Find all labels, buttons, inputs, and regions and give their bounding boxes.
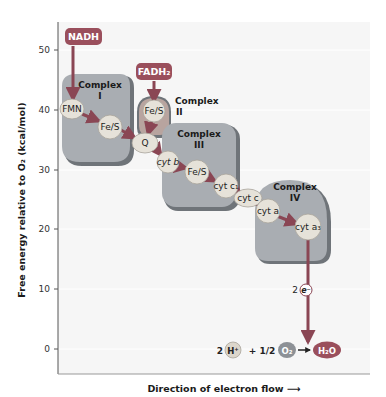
carrier-cyt-b: cyt b (157, 151, 180, 173)
carrier-fes-ii-label: Fe/S (145, 106, 164, 116)
electrons-label: 2 e⁻ (292, 284, 312, 296)
electron-symbol: e⁻ (301, 286, 311, 295)
complex-ii-numeral: II (176, 107, 183, 117)
complex-iii-title: Complex (177, 129, 221, 139)
carrier-q: Q (132, 133, 158, 153)
carrier-fes-i-label: Fe/S (101, 122, 120, 132)
carrier-fes-iii-label: Fe/S (188, 167, 207, 177)
y-tick-30: 30 (39, 165, 51, 175)
y-tick-50: 50 (39, 45, 51, 55)
o2-molecule: O₂ (282, 346, 293, 356)
nadh-label: NADH (68, 31, 99, 42)
carrier-cyt-a3: cyt a₃ (295, 214, 321, 240)
fadh2-chip: FADH₂ (136, 63, 172, 80)
half-coefficient: + 1/2 (249, 346, 276, 356)
y-tick-40: 40 (39, 105, 51, 115)
complex-iii-numeral: III (194, 140, 204, 150)
carrier-fes-ii: Fe/S (143, 100, 165, 122)
carrier-fmn-label: FMN (62, 104, 82, 114)
y-tick-labels: 50 40 30 20 10 0 (39, 45, 51, 354)
carrier-cyt-a: cyt a (256, 199, 280, 223)
complex-iv-title: Complex (273, 182, 317, 192)
h2o-product: H₂O (318, 346, 336, 356)
complex-i-title: Complex (78, 80, 122, 90)
complex-ii-title: Complex (175, 96, 219, 106)
complex-iv-numeral: IV (290, 193, 300, 203)
carrier-cyt-c-label: cyt c (237, 193, 259, 203)
x-axis-title: Direction of electron flow ⟶ (147, 383, 301, 394)
carrier-fes-i: Fe/S (98, 115, 122, 139)
carrier-fmn: FMN (60, 99, 84, 119)
electron-count: 2 (292, 285, 298, 295)
nadh-chip: NADH (65, 28, 102, 45)
carrier-cyt-b-label: cyt b (157, 157, 180, 167)
y-tick-10: 10 (39, 284, 51, 294)
carrier-q-label: Q (141, 138, 148, 148)
carrier-cyt-c1-label: cyt c₁ (213, 181, 239, 191)
y-tick-20: 20 (39, 224, 51, 234)
y-tick-0: 0 (44, 344, 50, 354)
y-axis-title: Free energy relative to O₂ (kcal/mol) (16, 102, 27, 297)
carrier-cyt-a3-label: cyt a₃ (295, 222, 321, 232)
h-coefficient: 2 (217, 346, 223, 356)
h-plus: H⁺ (227, 346, 239, 356)
electron-transport-chain-diagram: 50 40 30 20 10 0 Free energy relative to… (0, 0, 386, 397)
carrier-fes-iii: Fe/S (185, 160, 209, 184)
complex-i-numeral: I (98, 91, 101, 101)
fadh2-label: FADH₂ (138, 66, 171, 77)
carrier-cyt-a-label: cyt a (257, 206, 279, 216)
